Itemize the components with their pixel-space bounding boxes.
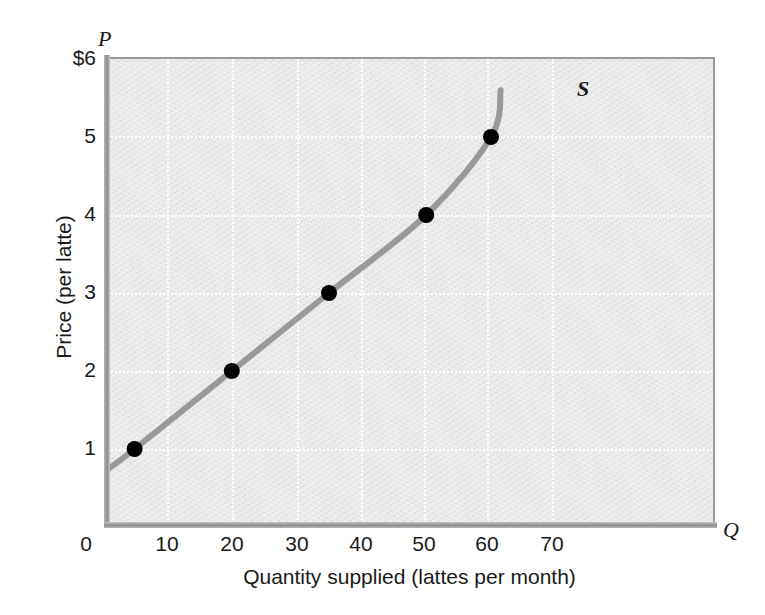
y-axis-letter: P (98, 26, 111, 52)
x-tick-label: 10 (155, 533, 178, 554)
plot-area (104, 57, 715, 524)
supply-curve (104, 59, 715, 526)
x-tick-label: 60 (475, 533, 498, 554)
data-point (418, 207, 434, 223)
x-tick-label: 50 (412, 533, 435, 554)
x-tick-label: 0 (80, 533, 92, 554)
y-axis-title: Price (per latte) (52, 97, 76, 477)
x-tick-label: 40 (349, 533, 372, 554)
data-point (483, 129, 499, 145)
data-point (224, 363, 240, 379)
supply-curve-line (109, 90, 501, 468)
supply-curve-figure: $6 5 4 3 2 1 P (0, 0, 765, 615)
curve-label: S (577, 76, 589, 102)
x-tick-label: 30 (285, 533, 308, 554)
x-axis-line (104, 522, 717, 528)
y-tick-label: $6 (50, 47, 96, 68)
x-tick-label: 70 (540, 533, 563, 554)
y-axis-line (104, 55, 110, 528)
data-point (127, 441, 143, 457)
data-point (321, 285, 337, 301)
x-axis-letter: Q (723, 517, 739, 543)
x-tick-label: 20 (220, 533, 243, 554)
x-axis-title: Quantity supplied (lattes per month) (104, 565, 715, 589)
